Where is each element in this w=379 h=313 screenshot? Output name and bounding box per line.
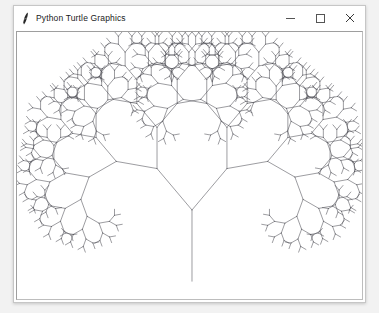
turtle-canvas-frame [16,31,363,300]
python-turtle-icon [19,11,33,25]
close-button[interactable] [335,6,365,30]
turtle-drawing-canvas[interactable] [17,32,362,299]
fractal-tree-drawing [17,32,362,281]
window-controls-group [275,6,365,30]
turtle-graphics-window: Python Turtle Graphics [13,5,366,303]
fractal-tree-path [17,32,362,281]
minimize-button[interactable] [275,6,305,30]
window-title-bar[interactable]: Python Turtle Graphics [14,6,365,31]
maximize-button[interactable] [305,6,335,30]
window-title-text: Python Turtle Graphics [36,14,126,23]
